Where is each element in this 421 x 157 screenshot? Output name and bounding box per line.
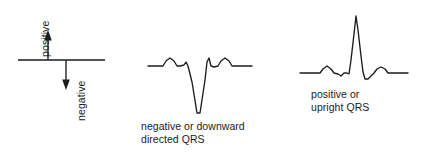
- negative-qrs-caption-line-1: negative or downward: [141, 120, 245, 133]
- negative-axis-label: negative: [75, 81, 87, 122]
- positive-qrs-panel: positive or upright QRS: [290, 0, 421, 130]
- positive-qrs-caption: positive or upright QRS: [311, 88, 369, 113]
- polarity-axis-panel: positive negative: [0, 0, 130, 130]
- positive-qrs-caption-line-2: upright QRS: [311, 101, 369, 114]
- negative-qrs-caption: negative or downward directed QRS: [141, 120, 245, 145]
- ecg-polarity-figure: positive negative negative or downward d…: [0, 0, 421, 157]
- negative-qrs-trace: [148, 58, 252, 113]
- positive-axis-label: positive: [39, 21, 51, 57]
- negative-arrow-head-icon: [62, 80, 70, 91]
- polarity-axis-drawing: [0, 0, 130, 130]
- positive-qrs-trace: [300, 16, 408, 79]
- negative-qrs-panel: negative or downward directed QRS: [130, 0, 290, 157]
- positive-qrs-drawing: [290, 0, 421, 88]
- negative-qrs-drawing: [130, 0, 290, 120]
- positive-qrs-caption-line-1: positive or: [311, 88, 369, 101]
- negative-qrs-caption-line-2: directed QRS: [141, 133, 245, 146]
